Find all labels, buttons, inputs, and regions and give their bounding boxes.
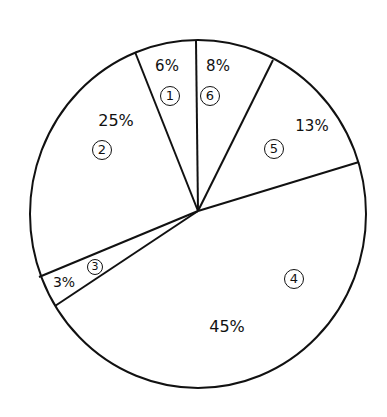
divider-4-3 [55,211,198,306]
divider-1-6 [196,41,198,211]
slice-6-number: 6 [200,86,220,106]
slice-2-number: 2 [92,140,112,160]
divider-3-2 [39,211,198,277]
divider-6-5 [198,60,273,211]
slice-5-percent: 13% [295,119,328,134]
pie-chart [0,0,387,417]
slice-1-percent: 6% [155,59,179,74]
slice-4-percent: 45% [209,319,245,335]
pie-outline [30,40,366,388]
slice-5-number: 5 [264,139,284,159]
divider-5-4 [198,162,359,211]
slice-1-number: 1 [160,86,180,106]
slice-3-number: 3 [87,259,103,275]
slice-4-number: 4 [284,269,304,289]
slice-3-percent: 3% [53,275,75,289]
slice-6-percent: 8% [206,59,230,74]
divider-2-1 [135,52,198,211]
slice-2-percent: 25% [98,113,134,129]
